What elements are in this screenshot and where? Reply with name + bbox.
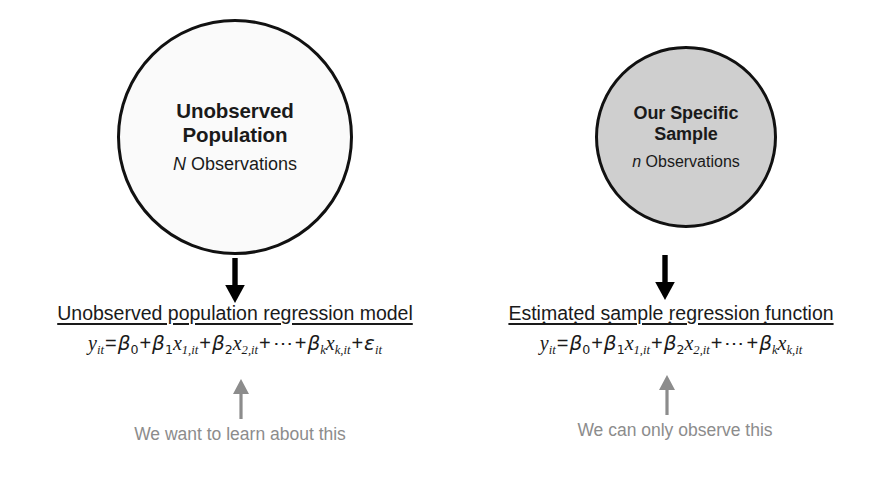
- down-arrow-icon: [222, 258, 248, 308]
- plus-1: +: [138, 332, 152, 354]
- beta2-hat: ˆβ: [664, 331, 677, 356]
- plus-3: +: [710, 332, 724, 354]
- xk: x: [326, 332, 335, 354]
- hat-mark-b2: ˆ: [665, 321, 674, 339]
- beta0-subscript: 0: [582, 341, 590, 356]
- x2-subscript: 2,it: [693, 342, 709, 356]
- beta1-subscript: 1: [617, 341, 625, 356]
- population-circle-title: Unobserved Population: [176, 99, 293, 147]
- sample-equation-block: Estimated sample regression function ˆyi…: [460, 302, 882, 358]
- beta0-hat: ˆβ: [569, 331, 582, 356]
- lhs-y: y: [88, 332, 97, 354]
- epsilon-subscript: it: [375, 342, 382, 356]
- up-arrow-icon: [656, 375, 678, 419]
- unobserved-population-circle: Unobserved Population N Observations: [117, 19, 353, 255]
- hat-mark-b1: ˆ: [605, 321, 614, 339]
- equals-sign: =: [556, 332, 570, 354]
- x1: x: [625, 332, 634, 354]
- population-caption: We want to learn about this: [90, 424, 390, 445]
- epsilon: ε: [364, 331, 375, 355]
- sample-title-line1: Our Specific: [634, 103, 739, 123]
- sample-caption: We can only observe this: [525, 420, 825, 441]
- diagram-canvas: Unobserved Population N Observations Uno…: [0, 0, 882, 481]
- hat-mark-y: ˆ: [539, 321, 548, 339]
- plus-1: +: [590, 332, 604, 354]
- xk-subscript: k,it: [786, 342, 802, 356]
- hat-mark-b0: ˆ: [571, 321, 580, 339]
- sample-equation-formula: ˆyit=ˆβ0+ˆβ1x1,it+ˆβ2x2,it+⋯+ˆβkxk,it: [460, 331, 882, 358]
- ellipsis: ⋯: [723, 332, 745, 354]
- x1-subscript: 1,it: [182, 342, 198, 356]
- beta2: β: [212, 331, 225, 355]
- yhat-subscript: it: [549, 342, 556, 356]
- sample-observation-label: Observations: [646, 153, 740, 170]
- x2: x: [684, 332, 693, 354]
- xk-subscript: k,it: [335, 342, 351, 356]
- plus-2: +: [198, 332, 212, 354]
- plus-3: +: [258, 332, 272, 354]
- x1-subscript: 1,it: [634, 342, 650, 356]
- lhs-y-subscript: it: [97, 342, 104, 356]
- population-observation-label: Observations: [191, 154, 297, 174]
- yhat: ˆy: [540, 331, 549, 356]
- population-observation-symbol: N: [173, 154, 186, 174]
- our-specific-sample-circle: Our Specific Sample n Observations: [595, 46, 777, 228]
- population-equation-heading: Unobserved population regression model: [0, 302, 470, 326]
- beta1-subscript: 1: [165, 341, 173, 356]
- plus-4: +: [745, 332, 759, 354]
- up-arrow-icon: [230, 379, 252, 423]
- plus-4: +: [294, 332, 308, 354]
- equals-sign: =: [104, 332, 118, 354]
- population-title-line2: Population: [183, 123, 288, 146]
- down-arrow-icon: [652, 255, 678, 305]
- sample-circle-title: Our Specific Sample: [634, 103, 739, 145]
- betak: β: [307, 331, 320, 355]
- plus-2: +: [650, 332, 664, 354]
- ellipsis: ⋯: [272, 332, 294, 354]
- population-title-line1: Unobserved: [176, 99, 293, 122]
- hat-mark-bk: ˆ: [761, 321, 770, 339]
- population-equation-formula: yit=β0+β1x1,it+β2x2,it+⋯+βkxk,it+εit: [0, 331, 470, 358]
- beta1-hat: ˆβ: [604, 331, 617, 356]
- population-equation-block: Unobserved population regression model y…: [0, 302, 470, 358]
- sample-circle-subtitle: n Observations: [632, 152, 740, 171]
- x1: x: [173, 332, 182, 354]
- sample-title-line2: Sample: [654, 124, 717, 144]
- x2-subscript: 2,it: [242, 342, 258, 356]
- beta2-subscript: 2: [225, 341, 233, 356]
- sample-observation-symbol: n: [632, 153, 641, 170]
- betak-hat: ˆβ: [759, 331, 772, 356]
- x2: x: [233, 332, 242, 354]
- plus-5: +: [350, 332, 364, 354]
- beta0: β: [118, 331, 131, 355]
- beta1: β: [152, 331, 165, 355]
- population-circle-subtitle: N Observations: [173, 154, 297, 176]
